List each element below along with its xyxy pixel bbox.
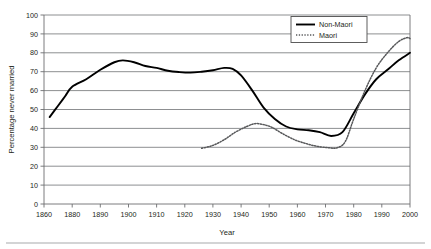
x-tick-label: 1880 [64, 210, 80, 219]
y-tick-label: 100 [26, 11, 38, 20]
x-tick-label: 1950 [261, 210, 277, 219]
x-axis-tick-labels: 1860 1880 1890 1900 1910 1920 1930 1940 … [36, 210, 418, 219]
x-tick-label: 1910 [149, 210, 165, 219]
x-tick-label: 1970 [318, 210, 334, 219]
x-tick-label: 1940 [233, 210, 249, 219]
y-tick-label: 20 [30, 162, 38, 171]
x-axis-ticks [44, 204, 410, 208]
x-tick-label: 1960 [289, 210, 305, 219]
y-tick-label: 90 [30, 30, 38, 39]
y-tick-label: 30 [30, 143, 38, 152]
y-tick-label: 80 [30, 48, 38, 57]
legend-label-maori: Maori [319, 31, 337, 40]
x-tick-label: 2000 [402, 210, 418, 219]
y-axis-ticks [41, 15, 45, 204]
legend-label-non-maori: Non-Maori [319, 20, 353, 29]
y-axis-tick-labels: 100 90 80 70 60 50 40 30 20 10 0 [26, 11, 38, 209]
x-axis-title: Year [219, 228, 235, 237]
x-tick-label: 1900 [121, 210, 137, 219]
x-tick-label: 1980 [346, 210, 362, 219]
chart-figure: 100 90 80 70 60 50 40 30 20 10 0 [0, 0, 431, 249]
x-tick-label: 1890 [92, 210, 108, 219]
x-tick-label: 1930 [205, 210, 221, 219]
x-tick-label: 1920 [177, 210, 193, 219]
y-tick-label: 0 [34, 200, 38, 209]
y-tick-label: 70 [30, 67, 38, 76]
y-tick-label: 10 [30, 181, 38, 190]
chart-legend[interactable]: Non-Maori Maori [291, 17, 367, 43]
x-tick-label: 1990 [374, 210, 390, 219]
x-tick-label: 1860 [36, 210, 52, 219]
line-chart: 100 90 80 70 60 50 40 30 20 10 0 [0, 0, 431, 249]
y-tick-label: 40 [30, 124, 38, 133]
y-axis-title: Percentage never married [7, 66, 16, 154]
y-tick-label: 60 [30, 86, 38, 95]
y-tick-label: 50 [30, 105, 38, 114]
